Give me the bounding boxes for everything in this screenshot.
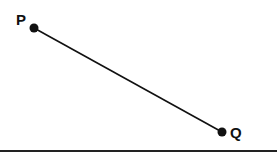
segment-pq — [34, 28, 222, 132]
point-q — [218, 128, 227, 137]
diagram-canvas: P Q — [0, 0, 277, 157]
label-p: P — [16, 11, 26, 28]
point-p — [30, 24, 39, 33]
label-q: Q — [230, 124, 242, 141]
